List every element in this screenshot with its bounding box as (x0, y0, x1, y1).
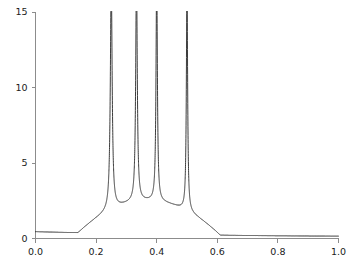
x-tick-label: 0.0 (28, 246, 43, 257)
data-curve-resonance (36, 0, 339, 236)
x-tick-label: 1.0 (331, 246, 346, 257)
y-tick-label: 10 (15, 82, 27, 93)
y-tick-label: 0 (21, 233, 27, 244)
y-tick-group: 051015 (15, 6, 35, 244)
plot-canvas: 051015 0.00.20.40.60.81.0 (0, 0, 353, 273)
x-tick-label: 0.4 (149, 246, 164, 257)
x-tick-label: 0.6 (210, 246, 225, 257)
x-tick-group: 0.00.20.40.60.81.0 (28, 239, 346, 257)
y-tick-label: 5 (21, 157, 27, 168)
x-tick-label: 0.2 (89, 246, 104, 257)
x-tick-label: 0.8 (270, 246, 285, 257)
y-tick-label: 15 (15, 6, 27, 17)
chart-figure: 051015 0.00.20.40.60.81.0 (0, 0, 353, 273)
